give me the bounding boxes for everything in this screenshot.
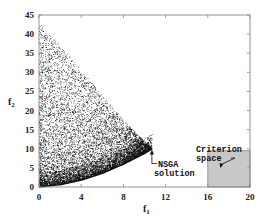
scatter-points [39,25,153,187]
y-tick-label: 40 [25,29,35,39]
y-tick-label: 20 [25,106,35,116]
y-tick-label: 30 [25,67,35,77]
criterion-label-line2: space [196,154,222,164]
x-tick-label: 0 [37,192,42,202]
x-tick-label: 12 [161,192,171,202]
x-axis-label: f1 [143,203,150,216]
y-tick-label: 35 [25,48,35,58]
scatter-point-cloud [39,25,153,187]
y-axis-label: f2 [8,96,15,109]
x-tick-label: 8 [121,192,126,202]
y-tick-label: 15 [25,125,35,135]
pareto-scatter-chart: 048121620 051015202530354045 f1 f2 NSGA … [0,0,267,223]
nsga-annotation: NSGA solution [150,150,195,179]
y-tick-label: 5 [30,163,35,173]
x-tick-label: 20 [246,192,256,202]
y-tick-label: 10 [25,144,35,154]
nsga-label-line2: solution [154,169,195,179]
y-tick-label: 45 [25,10,35,20]
y-tick-label: 25 [25,86,35,96]
x-tick-label: 16 [203,192,213,202]
x-tick-label: 4 [79,192,84,202]
y-tick-label: 0 [30,182,35,192]
